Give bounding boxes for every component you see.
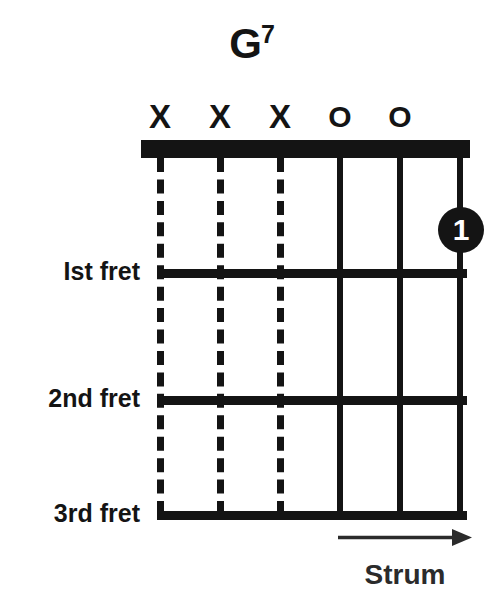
fret-label-2: 2nd fret [10,385,140,411]
finger-dot-1: 1 [438,207,484,253]
chord-quality-label: 7 [261,20,275,48]
string-marker-1-muted: X [140,100,180,134]
string-line-5 [397,158,403,519]
strum-arrow-right-icon [332,522,478,554]
string-marker-3-muted: X [260,100,300,134]
fret-label-3: 3rd fret [10,500,140,526]
string-marker-5-open: O [380,100,420,134]
string-marker-4-open: O [320,100,360,134]
strum-label: Strum [330,560,480,590]
fret-line-2 [157,396,467,405]
nut-bar [141,140,470,158]
string-line-1 [157,158,164,515]
chord-root-label: G [229,20,261,67]
fret-label-1: Ist fret [10,258,140,284]
fret-line-1 [157,269,467,278]
string-line-4 [337,158,343,519]
string-line-3 [277,158,284,515]
fret-line-3 [157,511,467,520]
string-marker-2-muted: X [200,100,240,134]
string-line-2 [217,158,224,515]
chord-name-title: G7 [0,22,504,65]
guitar-chord-diagram: G7 X X X O O Ist fret 2nd fret 3rd fret … [0,0,504,615]
